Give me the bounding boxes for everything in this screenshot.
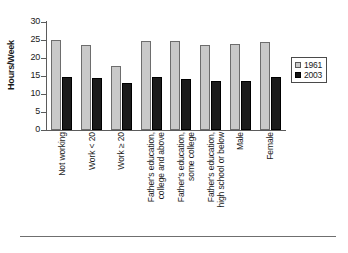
plot-area — [47, 22, 285, 130]
bar-1961 — [81, 45, 91, 130]
bar-group — [81, 22, 102, 130]
y-axis-tick — [41, 76, 46, 77]
legend-label-2003: 2003 — [304, 71, 322, 80]
y-axis-tick — [41, 94, 46, 95]
bar-group — [170, 22, 191, 130]
bar-2003 — [181, 79, 191, 130]
x-axis-tick-label-line: Father's education, — [207, 132, 217, 208]
bar-2003 — [152, 77, 162, 130]
bar-1961 — [51, 40, 61, 130]
y-axis-tick-labels: 051015202530 — [0, 0, 40, 253]
x-axis-tick-label-line: Male — [236, 132, 246, 150]
y-axis-tick — [41, 112, 46, 113]
x-axis-tick-label: Father's education,some college — [177, 132, 196, 202]
bar-1961 — [230, 44, 240, 130]
bar-1961 — [141, 41, 151, 130]
bar-group — [141, 22, 162, 130]
y-axis-tick — [41, 130, 46, 131]
y-axis-tick-label: 30 — [2, 17, 40, 26]
bar-2003 — [211, 81, 221, 130]
x-axis-tick-label-line: Work < 20 — [88, 132, 98, 170]
bar-2003 — [62, 77, 72, 130]
x-axis-tick-labels: Not workingWork < 20Work ≥ 20Father's ed… — [47, 132, 285, 232]
x-axis-tick-label: Not working — [58, 132, 68, 176]
bar-group — [111, 22, 132, 130]
x-axis-tick-label-line: Not working — [58, 132, 68, 176]
x-axis-tick-label-line: some college — [186, 132, 196, 202]
y-axis-tick — [41, 22, 46, 23]
bottom-rule-divider — [20, 236, 336, 237]
x-axis-tick-label-line: college and above — [157, 132, 167, 202]
y-axis-tick-label: 25 — [2, 35, 40, 44]
legend-swatch-icon-1961 — [295, 62, 301, 68]
bar-group — [260, 22, 281, 130]
bar-group — [200, 22, 221, 130]
y-axis-tick-label: 15 — [2, 71, 40, 80]
x-axis-tick-label-line: Female — [266, 132, 276, 160]
y-axis-tick-label: 5 — [2, 107, 40, 116]
bar-2003 — [92, 78, 102, 130]
chart-legend: 1961 2003 — [291, 57, 327, 83]
x-axis-tick-label-line: Work ≥ 20 — [117, 132, 127, 170]
bar-1961 — [170, 41, 180, 130]
y-axis-tick-label: 10 — [2, 89, 40, 98]
y-axis-tick — [41, 58, 46, 59]
legend-item-1961: 1961 — [295, 60, 322, 70]
bar-group — [51, 22, 72, 130]
bar-2003 — [122, 83, 132, 130]
bar-2003 — [271, 77, 281, 130]
x-axis-tick-label: Female — [266, 132, 276, 160]
x-axis-line — [46, 130, 286, 131]
y-axis-tick-label: 0 — [2, 125, 40, 134]
legend-item-2003: 2003 — [295, 70, 322, 80]
bar-group — [230, 22, 251, 130]
chart-figure: Hours/Week 051015202530 Not workingWork … — [0, 0, 348, 253]
x-axis-tick-label: Work < 20 — [88, 132, 98, 170]
x-axis-tick-label-line: Father's education, — [177, 132, 187, 202]
x-axis-tick-label: Work ≥ 20 — [117, 132, 127, 170]
x-axis-tick-label: Male — [236, 132, 246, 150]
y-axis-tick — [41, 40, 46, 41]
y-axis-tick-label: 20 — [2, 53, 40, 62]
bar-1961 — [200, 45, 210, 130]
x-axis-tick-label: Father's education,high school or below — [207, 132, 226, 208]
legend-swatch-icon-2003 — [295, 72, 301, 78]
legend-label-1961: 1961 — [304, 61, 322, 70]
bar-2003 — [241, 81, 251, 130]
x-axis-tick-label: Father's education,college and above — [147, 132, 166, 202]
bar-1961 — [260, 42, 270, 130]
x-axis-tick-label-line: high school or below — [216, 132, 226, 208]
bar-1961 — [111, 66, 121, 130]
